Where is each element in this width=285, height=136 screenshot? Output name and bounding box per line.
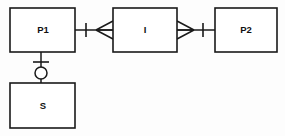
cardinality-many-crowfoot-i-right [177, 21, 194, 39]
cardinality-optional-circle [35, 67, 47, 79]
connection-i-p2 [177, 21, 215, 39]
entity-s[interactable]: S [10, 83, 75, 128]
er-diagram-svg: P1 I P2 S [0, 0, 285, 136]
entity-p2-label: P2 [240, 24, 252, 35]
entity-p2[interactable]: P2 [215, 8, 277, 52]
entity-i-label: I [144, 24, 147, 35]
cardinality-many-crowfoot-i-left [96, 21, 113, 39]
entity-p1[interactable]: P1 [10, 8, 75, 52]
entity-p1-label: P1 [37, 24, 49, 35]
connection-p1-s [33, 52, 49, 83]
connection-p1-i [75, 21, 113, 39]
entity-s-label: S [40, 100, 46, 111]
entity-i[interactable]: I [113, 8, 177, 52]
er-diagram-canvas: P1 I P2 S [0, 0, 285, 136]
